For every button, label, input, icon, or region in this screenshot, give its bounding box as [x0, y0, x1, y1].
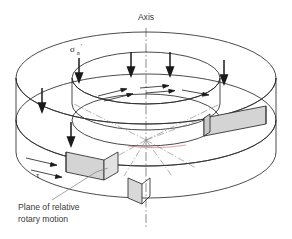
normal-stress-label: σ n ' [70, 42, 82, 56]
axis-label: Axis [138, 12, 154, 22]
shear-arrow-4 [146, 89, 175, 93]
load-arrow-1 [76, 58, 83, 82]
normal-stress-subscript: n [77, 50, 80, 56]
shear-arrow-5 [182, 90, 209, 96]
shear-arrow-6 [26, 158, 57, 166]
load-arrow-4 [221, 60, 228, 84]
shear-arrow-3 [140, 84, 169, 88]
shaded-block-right [204, 106, 266, 136]
plane-caption-line-1: Plane of relative [18, 202, 80, 212]
normal-load-arrows [39, 52, 228, 146]
plane-caption-line-2: rotary motion [18, 214, 68, 224]
shear-arrows-outer [26, 158, 62, 178]
shaded-block-left [66, 152, 118, 180]
ring-shear-diagram: Axis σ n ' τ Plane of relative rotary mo… [0, 0, 292, 239]
shaded-block-bottom [128, 178, 150, 204]
load-arrow-2 [128, 52, 135, 76]
normal-stress-prime: ' [81, 42, 82, 49]
normal-stress-sigma: σ [70, 44, 75, 54]
load-arrow-3 [167, 52, 174, 76]
shear-stress-label: τ [36, 170, 40, 180]
